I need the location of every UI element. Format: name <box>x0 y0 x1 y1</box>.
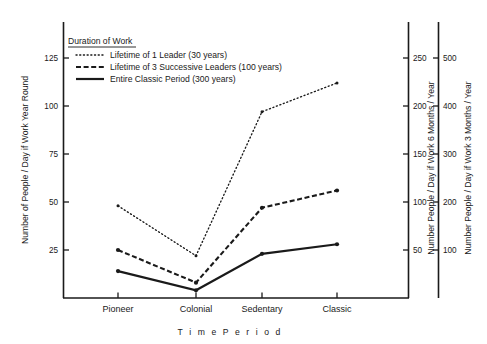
data-point <box>260 252 264 256</box>
data-point <box>335 242 339 246</box>
left-tick-label-50: 50 <box>49 198 59 207</box>
right-axis-1-ticks <box>403 58 409 250</box>
legend-title: Duration of Work <box>68 36 133 46</box>
data-point <box>116 269 120 273</box>
data-point <box>260 206 264 210</box>
legend-item-dashed[interactable]: Lifetime of 3 Successive Leaders (100 ye… <box>76 62 282 72</box>
right1-tick-label-250: 250 <box>413 54 427 63</box>
legend-item-dotted[interactable]: Lifetime of 1 Leader (30 years) <box>76 50 227 60</box>
legend-label-dashed: Lifetime of 3 Successive Leaders (100 ye… <box>110 62 282 72</box>
chart-canvas: 125 100 75 50 25 Number of People / Day … <box>0 0 487 344</box>
right1-tick-label-50: 50 <box>413 246 423 255</box>
right2-tick-label-200: 200 <box>443 198 457 207</box>
x-tick-label-classic: Classic <box>322 304 352 314</box>
left-tick-label-75: 75 <box>49 150 59 159</box>
legend-label-dotted: Lifetime of 1 Leader (30 years) <box>110 50 227 60</box>
data-point <box>194 288 198 292</box>
left-tick-label-125: 125 <box>44 54 58 63</box>
chart-legend: Duration of Work Lifetime of 1 Leader (3… <box>68 36 282 84</box>
data-point <box>117 204 120 207</box>
left-axis-ticks <box>64 58 70 250</box>
chart-figure: 125 100 75 50 25 Number of People / Day … <box>0 0 487 344</box>
x-axis-ticks <box>118 293 337 299</box>
data-point <box>261 110 264 113</box>
legend-label-solid: Entire Classic Period (300 years) <box>110 74 236 84</box>
data-point <box>335 188 339 192</box>
right-axis-2-title: Number People / Day if Work 3 Months / Y… <box>463 81 473 254</box>
right2-tick-label-100: 100 <box>443 246 457 255</box>
right1-tick-label-100: 100 <box>413 198 427 207</box>
left-tick-label-25: 25 <box>49 246 59 255</box>
series-line-solid <box>116 242 339 292</box>
x-tick-label-pioneer: Pioneer <box>102 304 133 314</box>
right2-tick-label-500: 500 <box>443 54 457 63</box>
data-point <box>336 81 339 84</box>
x-tick-label-colonial: Colonial <box>180 304 213 314</box>
data-point <box>195 254 198 257</box>
chart-svg: 125 100 75 50 25 Number of People / Day … <box>0 0 487 344</box>
right1-tick-label-150: 150 <box>413 150 427 159</box>
right1-tick-label-200: 200 <box>413 102 427 111</box>
right-axis-1-title: Number People / Day if Work 6 Months / Y… <box>426 81 436 254</box>
left-axis-title: Number of People / Day if Work Year Roun… <box>20 76 30 244</box>
data-point <box>194 281 198 285</box>
left-tick-label-100: 100 <box>44 102 58 111</box>
series-line-dotted <box>117 81 339 257</box>
data-point <box>116 248 120 252</box>
series-line-dashed <box>116 188 339 284</box>
right2-tick-label-400: 400 <box>443 102 457 111</box>
right2-tick-label-300: 300 <box>443 150 457 159</box>
legend-item-solid[interactable]: Entire Classic Period (300 years) <box>76 74 236 84</box>
x-tick-label-sedentary: Sedentary <box>241 304 283 314</box>
x-axis-title: T i m e P e r i o d <box>177 327 282 337</box>
